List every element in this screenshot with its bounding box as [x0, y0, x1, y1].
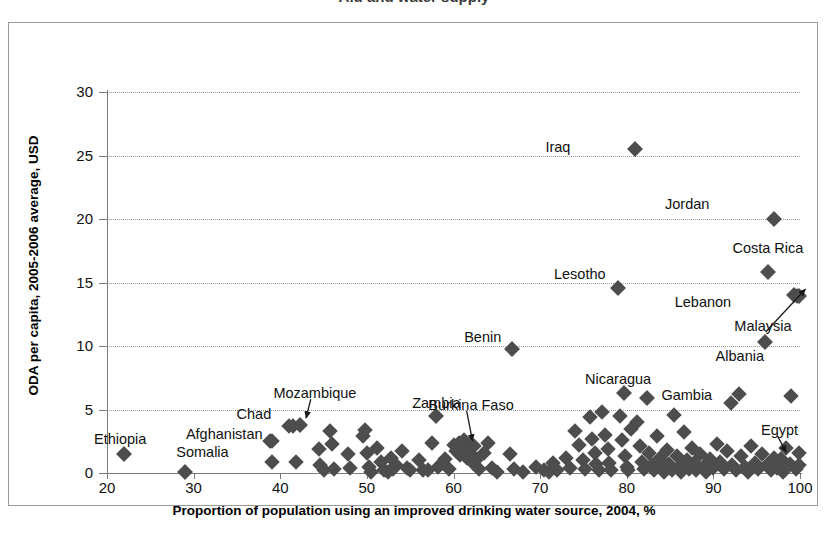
label-somalia: Somalia	[176, 445, 228, 460]
label-afghanistan: Afghanistan	[186, 427, 263, 442]
label-costa-rica: Costa Rica	[732, 241, 803, 256]
label-ethiopia: Ethiopia	[94, 432, 146, 447]
label-jordan: Jordan	[665, 197, 709, 212]
label-iraq: Iraq	[545, 140, 570, 155]
label-egypt: Egypt	[761, 423, 798, 438]
label-lesotho: Lesotho	[554, 267, 606, 282]
label-burkina-faso: Burkina Faso	[428, 398, 513, 413]
label-nicaragua: Nicaragua	[585, 372, 651, 387]
label-mozambique: Mozambique	[273, 386, 356, 401]
leader-lines	[0, 0, 828, 543]
label-gambia: Gambia	[661, 388, 712, 403]
x-axis-title: Proportion of population using an improv…	[0, 503, 828, 518]
label-malaysia: Malaysia	[734, 319, 791, 334]
label-lebanon: Lebanon	[675, 295, 731, 310]
label-benin: Benin	[464, 330, 501, 345]
label-albania: Albania	[716, 349, 764, 364]
label-chad: Chad	[237, 407, 272, 422]
y-axis-title: ODA per capita, 2005-2006 average, USD	[26, 66, 41, 466]
chart-root: Aid and water supply 051015202530 203040…	[0, 0, 828, 543]
